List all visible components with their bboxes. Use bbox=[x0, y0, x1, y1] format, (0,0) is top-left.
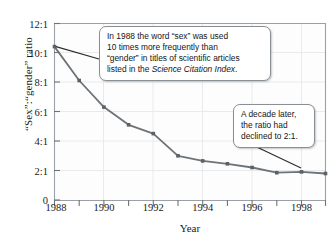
callout-1-line-1: In 1988 the word “sex” was used bbox=[107, 31, 263, 42]
annotation-callout-1988: In 1988 the word “sex” was used 10 times… bbox=[99, 26, 271, 81]
annotation-callout-1998: A decade later, the ratio had declined t… bbox=[233, 104, 315, 148]
callout-2-line-2: the ratio had bbox=[241, 120, 307, 131]
callout-2-line-3: declined to 2:1. bbox=[241, 131, 307, 142]
y-tick-label-0: 0 bbox=[6, 195, 48, 206]
x-tick-label-1998: 1998 bbox=[291, 202, 312, 213]
x-axis-title: Year bbox=[54, 222, 326, 234]
callout-1-line-2: 10 times more frequently than bbox=[107, 42, 263, 53]
callout-1-line-4-post: . bbox=[235, 64, 237, 74]
callout-1-line-4-pre: listed in the bbox=[107, 64, 152, 74]
callout-2-line-1: A decade later, bbox=[241, 109, 307, 120]
callout-1-line-4-italic: Science Citation Index bbox=[152, 64, 235, 74]
callout-1-line-3: “gender” in titles of scientific article… bbox=[107, 53, 263, 64]
y-tick-label-2: 2:1 bbox=[6, 165, 48, 176]
x-tick-label-1992: 1992 bbox=[143, 202, 164, 213]
callout-1-line-4: listed in the Science Citation Index. bbox=[107, 64, 263, 75]
y-axis-title: “Sex”:“gender” ratio bbox=[22, 4, 34, 164]
x-tick-label-1994: 1994 bbox=[192, 202, 213, 213]
chart-figure: 12:1 10:1 8:1 6:1 4:1 2:1 0 1988 1990 19… bbox=[0, 0, 336, 242]
x-tick-label-1990: 1990 bbox=[93, 202, 114, 213]
x-tick-label-1988: 1988 bbox=[46, 202, 67, 213]
x-tick-label-1996: 1996 bbox=[242, 202, 263, 213]
